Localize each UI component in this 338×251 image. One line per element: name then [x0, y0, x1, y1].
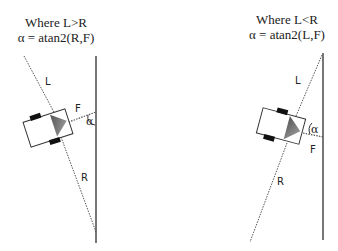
right-robot: [255, 104, 306, 148]
right-diagram: α L F R: [250, 53, 323, 242]
left-diagram: α L F R: [22, 56, 96, 243]
right-R-label: R: [277, 176, 284, 187]
right-alpha-label: α: [311, 123, 319, 136]
left-L-label: L: [45, 76, 51, 87]
right-L-label: L: [295, 75, 301, 86]
diagram-canvas: α L F R α L F R: [0, 0, 338, 251]
right-R-ray: [250, 143, 287, 242]
left-F-label: F: [75, 103, 81, 114]
right-F-label: F: [310, 144, 316, 155]
left-alpha-label: α: [86, 115, 94, 128]
left-R-label: R: [81, 172, 88, 183]
left-R-ray: [61, 137, 96, 232]
left-robot: [22, 105, 74, 151]
left-robot-body: [23, 109, 73, 147]
